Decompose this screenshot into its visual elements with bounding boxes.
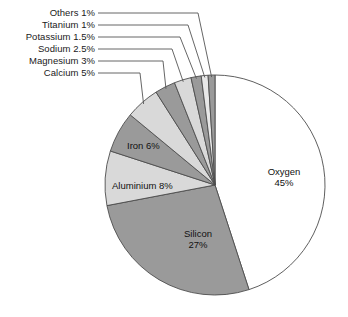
slice-label-silicon-name: Silicon — [184, 228, 212, 239]
slice-label-oxygen-name: Oxygen — [268, 166, 301, 177]
callout-label-magnesium: Magnesium 3% — [29, 56, 95, 66]
slice-label-silicon: Silicon 27% — [170, 228, 226, 250]
leader-line-magnesium — [98, 61, 166, 89]
leader-line-potassium — [98, 37, 196, 79]
callout-label-titanium: Titanium 1% — [42, 20, 95, 30]
slice-label-iron: Iron 6% — [127, 140, 187, 151]
slice-label-oxygen-pct: 45% — [256, 177, 312, 188]
callout-label-others: Others 1% — [50, 8, 95, 18]
callout-label-potassium: Potassium 1.5% — [26, 32, 95, 42]
callout-label-calcium: Calcium 5% — [44, 68, 95, 78]
slice-label-oxygen: Oxygen 45% — [256, 166, 312, 188]
slice-label-silicon-pct: 27% — [170, 239, 226, 250]
callout-label-sodium: Sodium 2.5% — [38, 44, 95, 54]
leader-line-calcium — [98, 73, 144, 104]
slice-label-aluminium: Aluminium 8% — [112, 180, 196, 191]
pie-chart-figure: Others 1% Titanium 1% Potassium 1.5% Sod… — [0, 0, 348, 317]
leader-line-titanium — [98, 25, 205, 77]
